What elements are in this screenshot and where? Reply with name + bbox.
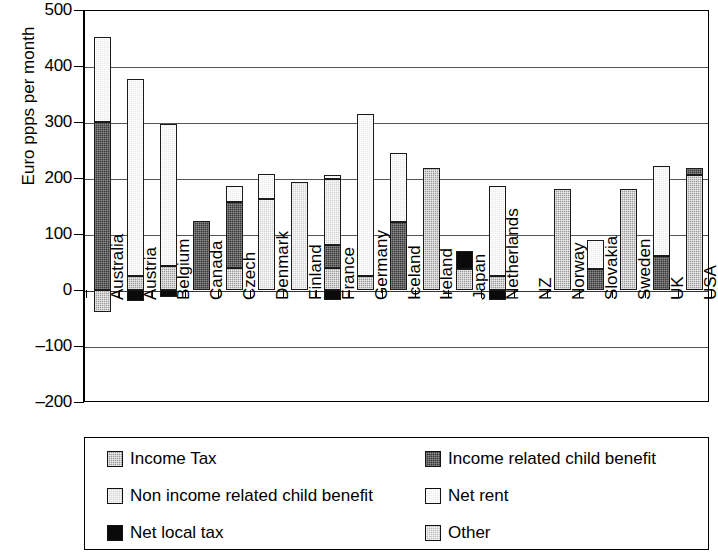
legend-swatch-other — [425, 525, 441, 541]
bar-group — [653, 10, 670, 402]
legend-swatch-net-local-tax — [107, 525, 123, 541]
x-tick-mark — [152, 290, 153, 298]
legend-label: Income related child benefit — [448, 450, 656, 467]
bar-group — [193, 10, 210, 402]
x-tick-mark — [415, 290, 416, 298]
x-tick-label: Belgium — [175, 239, 192, 300]
bar-group — [226, 10, 243, 402]
legend-item[interactable]: Income related child benefit — [425, 450, 656, 467]
x-tick-label: USA — [702, 265, 718, 300]
x-tick-label: NZ — [537, 277, 554, 300]
y-axis-title: Euro ppps per month — [19, 0, 39, 221]
y-tick-label: 200 — [45, 169, 72, 186]
y-tick-mark — [74, 178, 84, 179]
x-tick-mark — [382, 290, 383, 298]
legend-label: Income Tax — [130, 450, 217, 467]
y-tick-label: 400 — [45, 57, 72, 74]
bar-segment — [324, 179, 341, 245]
x-tick-mark — [316, 290, 317, 298]
y-tick-mark — [74, 402, 84, 403]
x-tick-label: Netherlands — [504, 208, 521, 300]
x-tick-mark — [481, 290, 482, 298]
x-tick-mark — [612, 290, 613, 298]
chart-legend: Income TaxIncome related child benefitNo… — [84, 437, 709, 550]
bar-segment — [94, 37, 111, 122]
chart-page: 5004003002001000–100–200 Euro ppps per m… — [0, 0, 718, 557]
y-tick-label: 500 — [45, 1, 72, 18]
bar-segment — [258, 174, 275, 199]
legend-swatch-net-rent — [425, 488, 441, 504]
legend-swatch-income-related-child-benefit — [425, 451, 441, 467]
y-axis: 5004003002001000–100–200 Euro ppps per m… — [0, 0, 84, 412]
x-tick-mark — [218, 290, 219, 298]
x-tick-label: Austria — [142, 247, 159, 300]
bar-segment — [226, 186, 243, 202]
legend-label: Other — [448, 524, 491, 541]
x-tick-mark — [579, 290, 580, 298]
bar-segment — [653, 166, 670, 257]
legend-item[interactable]: Net local tax — [107, 524, 224, 541]
y-tick-mark — [74, 346, 84, 347]
bar-segment — [390, 153, 407, 221]
y-tick-label: –200 — [35, 393, 72, 410]
bar-group — [456, 10, 473, 402]
bar-group — [160, 10, 177, 402]
y-tick-label: –100 — [35, 337, 72, 354]
x-tick-mark — [283, 290, 284, 298]
bar-segment — [324, 175, 341, 179]
y-tick-mark — [74, 66, 84, 67]
bar-group — [324, 10, 341, 402]
bar-segment — [686, 168, 703, 175]
y-tick-label: 300 — [45, 113, 72, 130]
x-tick-mark — [119, 290, 120, 298]
x-tick-mark — [514, 290, 515, 298]
x-tick-mark — [547, 290, 548, 298]
y-tick-label: 100 — [45, 225, 72, 242]
legend-label: Net rent — [448, 487, 508, 504]
x-tick-label: Canada — [208, 240, 225, 300]
legend-item[interactable]: Non income related child benefit — [107, 487, 373, 504]
bar-group — [258, 10, 275, 402]
x-tick-mark — [448, 290, 449, 298]
bar-group — [686, 10, 703, 402]
legend-item[interactable]: Other — [425, 524, 491, 541]
bar-group — [554, 10, 571, 402]
x-tick-label: Japan — [471, 254, 488, 300]
x-tick-label: Ireland — [438, 248, 455, 300]
x-tick-mark — [185, 290, 186, 298]
legend-item[interactable]: Income Tax — [107, 450, 217, 467]
y-tick-mark — [74, 122, 84, 123]
x-tick-mark — [711, 290, 712, 298]
bar-group — [489, 10, 506, 402]
y-tick-label: 0 — [63, 281, 72, 298]
legend-item[interactable]: Net rent — [425, 487, 508, 504]
legend-swatch-non-income-related-child-benefit — [107, 488, 123, 504]
x-tick-label: Iceland — [406, 245, 423, 300]
bar-group — [587, 10, 604, 402]
legend-swatch-income-tax — [107, 451, 123, 467]
x-tick-mark — [250, 290, 251, 298]
bar-group — [522, 10, 539, 402]
bar-group — [357, 10, 374, 402]
bar-group — [94, 10, 111, 402]
x-tick-mark — [86, 290, 87, 298]
y-tick-mark — [74, 10, 84, 11]
bar-group — [291, 10, 308, 402]
x-tick-mark — [678, 290, 679, 298]
x-tick-mark — [349, 290, 350, 298]
legend-label: Non income related child benefit — [130, 487, 373, 504]
bar-group — [423, 10, 440, 402]
bar-group — [390, 10, 407, 402]
x-tick-mark — [645, 290, 646, 298]
x-tick-label: Australia — [109, 234, 126, 300]
y-tick-mark — [74, 290, 84, 291]
bar-group — [620, 10, 637, 402]
bar-group — [127, 10, 144, 402]
legend-label: Net local tax — [130, 524, 224, 541]
y-tick-mark — [74, 234, 84, 235]
bar-series-layer — [84, 10, 709, 402]
